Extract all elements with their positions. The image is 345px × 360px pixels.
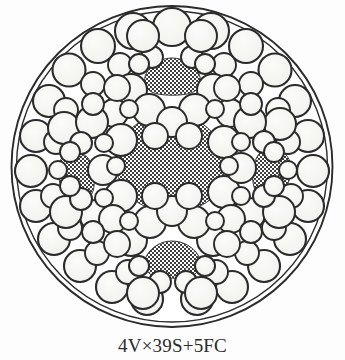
wire-packing [214, 231, 240, 257]
wire-packing [82, 93, 104, 115]
wire-strand-left [49, 161, 67, 179]
wire-strand-top [195, 54, 215, 74]
wire-outer [15, 155, 47, 187]
wire-outer [297, 155, 329, 187]
wire-strand-bottom [185, 277, 217, 309]
figure-caption: 4V×39S+5FC [0, 334, 345, 358]
wire-strand-top [127, 20, 159, 52]
wire-strand-bottom [120, 212, 138, 230]
wire-packing [142, 183, 168, 209]
wire-strand-right [232, 187, 250, 205]
wire-strand-bottom [195, 256, 215, 276]
wire-packing [264, 142, 284, 162]
wire-packing [104, 231, 130, 257]
wire-packing [264, 176, 284, 196]
wire-strand-bottom [127, 277, 159, 309]
wire-packing [176, 183, 202, 209]
wire-packing [240, 93, 262, 115]
wire-strand-top [129, 54, 149, 74]
wire-strand-bottom [129, 256, 149, 276]
wire-packing [104, 75, 130, 101]
wire-packing [176, 123, 202, 149]
wire-strand-top [185, 20, 217, 52]
wire-packing [60, 176, 80, 196]
wire-rope-cross-section-diagram [0, 0, 345, 335]
wire-strand-right [232, 133, 250, 151]
wire-packing [214, 75, 240, 101]
wire-strand-top [120, 100, 138, 118]
wire-packing [240, 221, 262, 243]
wire-strand-bottom [206, 212, 224, 230]
wire-strand-right [279, 161, 297, 179]
wire-strand-left [95, 134, 113, 152]
wire-rope-figure: 4V×39S+5FC [0, 0, 345, 360]
wire-strand-top [206, 100, 224, 118]
wire-packing [142, 123, 168, 149]
diagram-canvas [12, 6, 333, 327]
wire-packing [82, 221, 104, 243]
wire-strand-left [107, 157, 125, 175]
wire-packing [60, 142, 80, 162]
wire-strand-right [220, 157, 238, 175]
